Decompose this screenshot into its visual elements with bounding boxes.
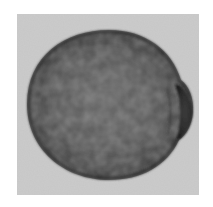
seed-photo-svg [17, 14, 199, 195]
page [0, 0, 213, 207]
seed-photo [17, 14, 199, 195]
